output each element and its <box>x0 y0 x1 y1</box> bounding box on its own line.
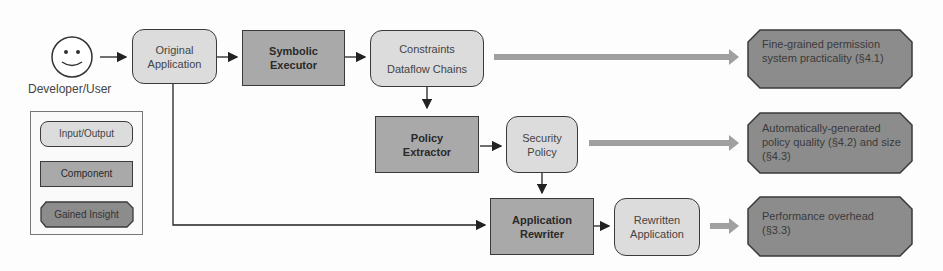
insight-3: Performance overhead (§3.3) <box>748 197 912 256</box>
wide-arrow-2 <box>589 135 739 151</box>
legend: Input/Output Component Gained Insight <box>30 111 143 235</box>
smiley-face-icon <box>50 35 94 79</box>
node-line1: Rewritten <box>634 213 680 227</box>
node-line2: Executor <box>270 58 317 72</box>
node-line2: Policy <box>527 145 556 159</box>
wide-arrow-1 <box>494 49 739 65</box>
node-line1: Constraints <box>399 39 455 59</box>
legend-item-component: Component <box>40 161 133 187</box>
wide-arrow-3 <box>710 218 739 234</box>
node-line1: Original <box>156 43 194 57</box>
insight-text: Fine-grained permission system practical… <box>762 37 902 65</box>
node-line2: Rewriter <box>520 227 564 241</box>
node-rewritten-application: Rewritten Application <box>614 198 700 256</box>
legend-label: Input/Output <box>59 127 114 141</box>
node-line2: Extractor <box>403 145 451 159</box>
node-line2: Application <box>630 227 684 241</box>
node-symbolic-executor: Symbolic Executor <box>242 30 345 86</box>
legend-label: Gained Insight <box>54 208 119 222</box>
node-line1: Security <box>522 131 562 145</box>
insight-text: Automatically-generated policy quality (… <box>762 121 902 163</box>
node-policy-extractor: Policy Extractor <box>375 116 479 173</box>
legend-item-input-output: Input/Output <box>40 121 133 147</box>
node-line2: Application <box>148 57 202 71</box>
node-constraints-dataflow: Constraints Dataflow Chains <box>370 30 484 87</box>
node-line1: Policy <box>411 131 443 145</box>
insight-2: Automatically-generated policy quality (… <box>748 113 912 173</box>
node-security-policy: Security Policy <box>506 116 578 173</box>
insight-text: Performance overhead (§3.3) <box>762 209 902 237</box>
legend-label: Component <box>61 167 113 181</box>
node-application-rewriter: Application Rewriter <box>490 198 594 255</box>
node-line2: Dataflow Chains <box>387 59 467 79</box>
insight-1: Fine-grained permission system practical… <box>748 30 912 88</box>
node-line1: Symbolic <box>269 44 318 58</box>
legend-item-gained-insight: Gained Insight <box>40 201 133 228</box>
actor-label: Developer/User <box>28 82 111 96</box>
node-line1: Application <box>512 213 572 227</box>
node-original-application: Original Application <box>132 29 217 84</box>
